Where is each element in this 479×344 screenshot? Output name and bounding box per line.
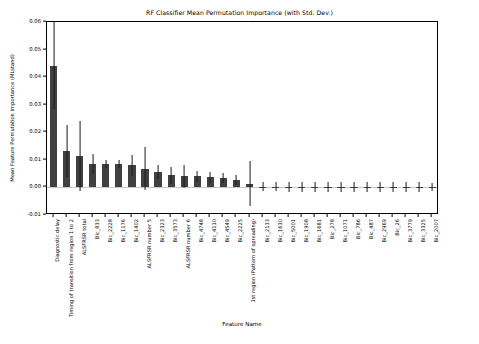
- x-tick-mark: [52, 214, 53, 217]
- x-tick-mark: [131, 214, 132, 217]
- x-tick-mark: [313, 214, 314, 217]
- error-bar: [236, 175, 237, 185]
- x-tick-label: Bic_1071: [342, 219, 348, 242]
- y-tick-label: 0.04: [29, 73, 41, 79]
- error-bar: [184, 165, 185, 189]
- x-tick-label: Bic_1908: [303, 219, 309, 242]
- x-tick-label: Bic_1681: [316, 219, 322, 242]
- x-tick-label: Bic_278: [329, 219, 335, 239]
- error-bar: [406, 182, 407, 191]
- x-tick-label: Bic_4110: [211, 219, 217, 242]
- x-tick-label: Bic_26: [394, 219, 400, 236]
- y-tick-label: 0.01: [29, 156, 41, 162]
- x-tick-mark: [287, 214, 288, 217]
- plot-area: [46, 21, 438, 214]
- x-tick-mark: [418, 214, 419, 217]
- x-tick-label: Bic_4549: [224, 219, 230, 242]
- x-tick-label: Bic_786: [355, 219, 361, 239]
- x-tick-mark: [222, 214, 223, 217]
- error-bar: [66, 125, 67, 177]
- x-tick-label: Bic_4748: [198, 219, 204, 242]
- x-tick-label: Bic_2969: [381, 219, 387, 242]
- x-tick-mark: [431, 214, 432, 217]
- x-tick-mark: [144, 214, 145, 217]
- x-tick-label: Bic_1630: [277, 219, 283, 242]
- x-tick-mark: [366, 214, 367, 217]
- x-tick-mark: [300, 214, 301, 217]
- error-bar: [132, 155, 133, 176]
- error-bar: [367, 182, 368, 191]
- error-bar: [354, 182, 355, 191]
- x-tick-mark: [157, 214, 158, 217]
- error-bar: [432, 183, 433, 191]
- x-tick-label: Bic_5001: [290, 219, 296, 242]
- error-bar: [197, 171, 198, 182]
- x-tick-mark: [209, 214, 210, 217]
- x-tick-label: Bic_3573: [172, 219, 178, 242]
- x-tick-mark: [235, 214, 236, 217]
- x-tick-label: Bic_1176: [120, 219, 126, 242]
- error-bar: [380, 182, 381, 191]
- x-tick-mark: [392, 214, 393, 217]
- y-tick-label: -0.01: [27, 211, 41, 217]
- x-tick-label: Bic_2228: [107, 219, 113, 242]
- x-tick-label: Bic_2007: [433, 219, 439, 242]
- error-bar: [328, 182, 329, 191]
- error-bar: [249, 161, 250, 206]
- x-axis-tick-labels: Diagnostic delayTiming of transition fro…: [46, 219, 438, 315]
- x-tick-label: ALSFRSR total: [81, 219, 87, 255]
- x-tick-mark: [170, 214, 171, 217]
- y-tick-label: 0.02: [29, 128, 41, 134]
- y-tick-label: 0.00: [29, 183, 41, 189]
- error-bar: [262, 182, 263, 191]
- x-tick-label: Timing of transition from region 1 to 2: [68, 219, 74, 317]
- error-bar: [288, 182, 289, 191]
- x-tick-label: ALSFRSR number 5: [146, 219, 152, 268]
- error-bar: [301, 182, 302, 191]
- y-tick-label: 0.06: [29, 18, 41, 24]
- x-tick-label: Bic_1402: [133, 219, 139, 242]
- error-bar: [105, 160, 106, 167]
- error-bar: [171, 167, 172, 184]
- x-tick-mark: [117, 214, 118, 217]
- error-bar: [419, 182, 420, 191]
- error-bar: [275, 182, 276, 191]
- chart-title: RF Classifier Mean Permutation Importanc…: [0, 9, 479, 16]
- x-tick-mark: [78, 214, 79, 217]
- x-tick-mark: [274, 214, 275, 217]
- error-bar: [158, 165, 159, 179]
- x-tick-label: ALSFRSR number 6: [185, 219, 191, 268]
- chart-figure: RF Classifier Mean Permutation Importanc…: [0, 0, 479, 344]
- x-axis-ticks: [46, 214, 438, 218]
- error-bar: [223, 173, 224, 183]
- x-tick-mark: [91, 214, 92, 217]
- x-tick-label: Bic_2133: [264, 219, 270, 242]
- error-bar: [341, 182, 342, 191]
- x-tick-mark: [340, 214, 341, 217]
- x-tick-label: Bic_487: [368, 219, 374, 239]
- plot-inner: [47, 22, 437, 213]
- y-axis: -0.010.000.010.020.030.040.050.06: [0, 21, 46, 214]
- x-tick-mark: [353, 214, 354, 217]
- error-bar: [92, 154, 93, 174]
- error-bar: [79, 121, 80, 192]
- x-tick-label: Bic_833: [94, 219, 100, 239]
- x-tick-mark: [379, 214, 380, 217]
- x-tick-mark: [405, 214, 406, 217]
- error-bar: [210, 172, 211, 183]
- x-tick-label: Diagnostic delay: [54, 219, 60, 262]
- x-tick-label: 1st region (Pattern of spreading): [250, 219, 256, 303]
- x-tick-label: Bic_2225: [237, 219, 243, 242]
- x-axis-title: Feature Name: [46, 321, 438, 327]
- error-bar: [393, 182, 394, 191]
- y-tick-label: 0.05: [29, 46, 41, 52]
- error-bar: [314, 182, 315, 191]
- error-bar: [145, 147, 146, 190]
- x-tick-label: Bic_2323: [159, 219, 165, 242]
- x-tick-label: Bic_3779: [407, 219, 413, 242]
- x-tick-mark: [261, 214, 262, 217]
- error-bar: [53, 22, 54, 109]
- x-tick-mark: [248, 214, 249, 217]
- x-tick-mark: [183, 214, 184, 217]
- x-tick-mark: [65, 214, 66, 217]
